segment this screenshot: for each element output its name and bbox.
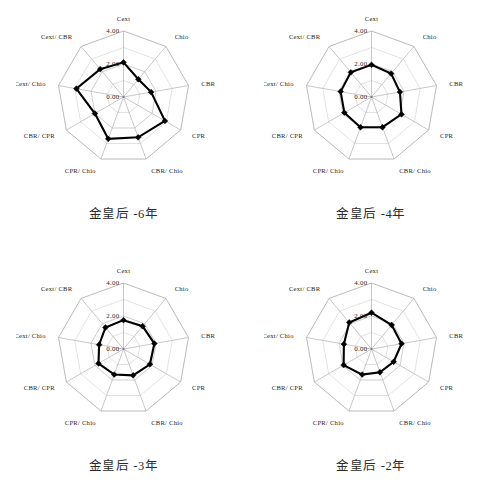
radial-tick-label: 0.00 — [354, 93, 368, 100]
axis-spoke — [124, 86, 189, 97]
axis-label: Chio — [422, 285, 436, 292]
radar-plot-area: CextChioCBRCPRCBR/ ChioCPR/ ChioCBR/ CPR… — [264, 12, 479, 197]
axis-label: CPR/ Chio — [65, 167, 96, 174]
axis-spoke — [124, 97, 181, 130]
radial-tick-label: 2.00 — [106, 312, 120, 319]
panel-caption: 金皇后 -6年 — [89, 203, 159, 222]
axis-label: CBR — [201, 332, 215, 339]
radar-plot-area: CextChioCBRCPRCBR/ ChioCPR/ ChioCBR/ CPR… — [16, 264, 231, 449]
axis-label: CPR — [440, 132, 454, 139]
radar-svg-0: CextChioCBRCPRCBR/ ChioCPR/ ChioCBR/ CPR… — [16, 12, 231, 197]
radial-tick-label: 2.00 — [354, 312, 368, 319]
axis-label: Cext/ Chio — [16, 332, 46, 339]
radial-tick-label: 0.00 — [106, 93, 120, 100]
data-point-marker — [340, 341, 346, 347]
axis-label: Cext — [117, 267, 130, 274]
radial-tick-label: 4.00 — [106, 27, 120, 34]
axis-label: Cext/ CBR — [41, 285, 73, 292]
axis-label: CPR/ Chio — [312, 167, 343, 174]
radar-svg-2: CextChioCBRCPRCBR/ ChioCPR/ ChioCBR/ CPR… — [16, 264, 231, 449]
axis-label: Chio — [175, 33, 189, 40]
axis-spoke — [371, 46, 413, 97]
radar-plot-area: CextChioCBRCPRCBR/ ChioCPR/ ChioCBR/ CPR… — [264, 264, 479, 449]
axis-label: CPR — [192, 384, 206, 391]
axis-label: Chio — [175, 285, 189, 292]
axis-label: CPR/ Chio — [65, 419, 96, 426]
center-point — [370, 348, 372, 350]
series-polygon — [343, 313, 401, 375]
axis-spoke — [124, 46, 166, 97]
radar-svg-1: CextChioCBRCPRCBR/ ChioCPR/ ChioCBR/ CPR… — [264, 12, 479, 197]
axis-label: CPR/ Chio — [312, 419, 343, 426]
center-point — [370, 96, 372, 98]
radar-chart-figure: CextChioCBRCPRCBR/ ChioCPR/ ChioCBR/ CPR… — [0, 0, 495, 501]
axis-label: CBR/ CPR — [24, 132, 55, 139]
axis-spoke — [81, 46, 123, 97]
axis-label: CBR — [449, 80, 463, 87]
axis-label: Cext/ CBR — [288, 285, 320, 292]
axis-label: CBR — [201, 80, 215, 87]
radar-panel: CextChioCBRCPRCBR/ ChioCPR/ ChioCBR/ CPR… — [247, 252, 495, 501]
axis-spoke — [371, 86, 436, 97]
axis-label: CPR — [440, 384, 454, 391]
radar-svg-3: CextChioCBRCPRCBR/ ChioCPR/ ChioCBR/ CPR… — [264, 264, 479, 449]
axis-label: Cext/ CBR — [41, 33, 73, 40]
radar-panel: CextChioCBRCPRCBR/ ChioCPR/ ChioCBR/ CPR… — [0, 252, 247, 501]
axis-label: CBR/ Chio — [151, 167, 183, 174]
center-point — [122, 348, 124, 350]
data-point-marker — [121, 317, 127, 323]
center-point — [122, 96, 124, 98]
axis-label: CBR/ Chio — [399, 419, 431, 426]
radial-tick-label: 4.00 — [106, 279, 120, 286]
radial-tick-label: 4.00 — [354, 27, 368, 34]
axis-spoke — [371, 349, 428, 382]
axis-label: Cext/ Chio — [264, 332, 294, 339]
panel-caption: 金皇后 -3年 — [89, 455, 159, 474]
axis-label: CBR/ Chio — [399, 167, 431, 174]
axis-label: CBR/ CPR — [271, 132, 302, 139]
axis-label: Cext — [364, 267, 377, 274]
radar-panel: CextChioCBRCPRCBR/ ChioCPR/ ChioCBR/ CPR… — [247, 0, 495, 252]
axis-label: Cext — [364, 15, 377, 22]
axis-label: Chio — [422, 33, 436, 40]
axis-label: CBR/ Chio — [151, 419, 183, 426]
data-point-marker — [96, 342, 102, 348]
panel-caption: 金皇后 -2年 — [336, 455, 406, 474]
panel-caption: 金皇后 -4年 — [336, 203, 406, 222]
axis-label: CBR/ CPR — [24, 384, 55, 391]
radial-tick-label: 2.00 — [106, 60, 120, 67]
axis-label: Cext/ CBR — [288, 33, 320, 40]
axis-label: Cext/ Chio — [264, 80, 294, 87]
axis-label: CBR/ CPR — [271, 384, 302, 391]
radial-tick-label: 2.00 — [354, 60, 368, 67]
radar-panel: CextChioCBRCPRCBR/ ChioCPR/ ChioCBR/ CPR… — [0, 0, 247, 252]
radial-tick-label: 4.00 — [354, 279, 368, 286]
axis-label: CBR — [449, 332, 463, 339]
radar-plot-area: CextChioCBRCPRCBR/ ChioCPR/ ChioCBR/ CPR… — [16, 12, 231, 197]
axis-label: Cext/ Chio — [16, 80, 46, 87]
series-polygon — [76, 62, 165, 139]
radial-tick-label: 0.00 — [354, 345, 368, 352]
axis-label: CPR — [192, 132, 206, 139]
radial-tick-label: 0.00 — [106, 345, 120, 352]
axis-label: Cext — [117, 15, 130, 22]
axis-spoke — [124, 298, 166, 349]
